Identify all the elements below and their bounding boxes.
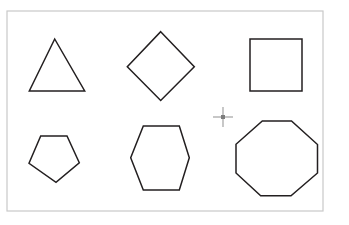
shape-square[interactable] <box>250 39 302 91</box>
shape-hexagon[interactable] <box>131 126 190 190</box>
shapes-canvas-app <box>0 0 349 225</box>
drawing-canvas[interactable] <box>0 0 349 225</box>
